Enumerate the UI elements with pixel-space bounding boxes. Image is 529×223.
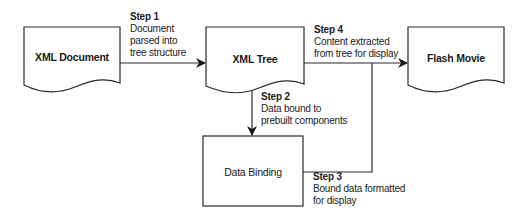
step2-annotation: Step 2 Data bound to prebuilt components xyxy=(261,91,347,127)
xml-document-label: XML Document xyxy=(35,51,109,63)
step1-title: Step 1 xyxy=(130,11,186,23)
step2-title: Step 2 xyxy=(261,91,347,103)
step3-line2: for display xyxy=(313,195,405,207)
step1-line1: Document xyxy=(130,23,186,35)
step1-line3: tree structure xyxy=(130,47,186,59)
step4-title: Step 4 xyxy=(314,24,398,36)
step4-line2: from tree for display xyxy=(314,48,398,60)
step1-annotation: Step 1 Document parsed into tree structu… xyxy=(130,11,186,59)
xml-tree-label: XML Tree xyxy=(233,53,278,65)
step2-line1: Data bound to xyxy=(261,103,347,115)
step1-line2: parsed into xyxy=(130,35,186,47)
step3-annotation: Step 3 Bound data formatted for display xyxy=(313,171,405,207)
step4-annotation: Step 4 Content extracted from tree for d… xyxy=(314,24,398,60)
data-binding-label: Data Binding xyxy=(224,166,282,178)
step2-line2: prebuilt components xyxy=(261,115,347,127)
step3-line1: Bound data formatted xyxy=(313,183,405,195)
step3-title: Step 3 xyxy=(313,171,405,183)
flash-movie-label: Flash Movie xyxy=(427,52,485,64)
step4-line1: Content extracted xyxy=(314,36,398,48)
